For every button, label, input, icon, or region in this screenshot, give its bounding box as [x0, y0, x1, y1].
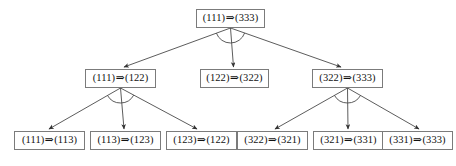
tree-node-leaf-5[interactable]: (321)⇒(331) [313, 131, 384, 150]
node-rhs: (113) [54, 135, 77, 146]
tree-edge [231, 28, 342, 67]
tree-edge [49, 88, 121, 129]
derivation-tree-diagram: (111)⇒(333)(111)⇒(122)(122)⇒(322)(322)⇒(… [0, 0, 456, 166]
tree-node-leaf-6[interactable]: (331)⇒(333) [382, 131, 453, 150]
double-arrow-icon: ⇒ [230, 73, 240, 84]
double-arrow-icon: ⇒ [343, 73, 353, 84]
tree-node-leaf-4[interactable]: (322)⇒(321) [237, 131, 308, 150]
double-arrow-icon: ⇒ [197, 135, 207, 146]
tree-edge [231, 28, 234, 67]
double-arrow-icon: ⇒ [268, 135, 278, 146]
tree-node-leaf-3[interactable]: (123)⇒(122) [166, 131, 237, 150]
double-arrow-icon: ⇒ [344, 135, 354, 146]
node-lhs: (122) [206, 73, 229, 84]
node-rhs: (333) [422, 135, 445, 146]
tree-edge [348, 88, 420, 129]
node-rhs: (123) [130, 135, 153, 146]
node-lhs: (322) [319, 73, 342, 84]
angle-arcs [107, 33, 360, 103]
angle-arc [334, 95, 360, 103]
tree-node-n-r[interactable]: (322)⇒(333) [312, 69, 383, 88]
tree-node-leaf-2[interactable]: (113)⇒(123) [90, 131, 161, 150]
node-lhs: (331) [389, 135, 412, 146]
angle-arc [216, 33, 244, 43]
node-lhs: (111) [203, 13, 225, 24]
double-arrow-icon: ⇒ [115, 73, 125, 84]
node-rhs: (331) [353, 135, 376, 146]
tree-node-n-m[interactable]: (122)⇒(322) [200, 69, 269, 88]
angle-arc [107, 95, 133, 103]
node-lhs: (322) [244, 135, 267, 146]
node-lhs: (123) [173, 135, 196, 146]
double-arrow-icon: ⇒ [225, 13, 235, 24]
tree-node-n-l[interactable]: (111)⇒(122) [85, 69, 156, 88]
node-lhs: (113) [97, 135, 120, 146]
tree-node-root[interactable]: (111)⇒(333) [196, 9, 265, 28]
double-arrow-icon: ⇒ [120, 135, 130, 146]
tree-edge [124, 28, 231, 67]
node-rhs: (333) [235, 13, 258, 24]
tree-edge [121, 88, 198, 129]
node-lhs: (111) [22, 135, 44, 146]
node-rhs: (322) [239, 73, 262, 84]
tree-node-leaf-1[interactable]: (111)⇒(113) [14, 131, 85, 150]
double-arrow-icon: ⇒ [413, 135, 423, 146]
node-rhs: (122) [206, 135, 229, 146]
node-rhs: (122) [125, 73, 148, 84]
node-rhs: (333) [352, 73, 375, 84]
node-lhs: (321) [320, 135, 343, 146]
node-lhs: (111) [93, 73, 115, 84]
tree-edge [275, 88, 348, 129]
node-rhs: (321) [277, 135, 300, 146]
tree-edge [121, 88, 125, 129]
tree-edge [348, 88, 349, 129]
double-arrow-icon: ⇒ [44, 135, 54, 146]
